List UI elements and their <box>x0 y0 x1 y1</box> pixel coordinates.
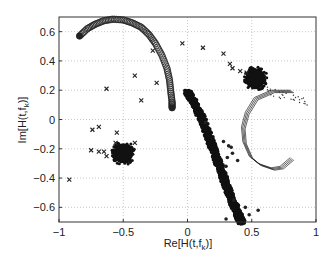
scatter-plot: −1−0.500.51 0.60.40.20−0.2−0.4−0.6 Re[H(… <box>0 0 335 261</box>
series-cluster-left <box>111 141 136 165</box>
x-tick-label: −1 <box>53 226 66 238</box>
series-cluster-right <box>243 66 268 91</box>
x-tick-label: −0.5 <box>112 226 134 238</box>
y-axis-label: Im[H(t,fk)] <box>16 97 31 144</box>
y-tick-label: 0.6 <box>40 26 55 38</box>
grid-lines <box>59 17 316 222</box>
x-tick-label: 0.5 <box>244 226 259 238</box>
x-tick-label: 1 <box>313 226 319 238</box>
x-axis-label: Re[H(t,fk)] <box>164 237 213 252</box>
y-tick-label: 0.4 <box>40 55 55 67</box>
y-tick-label: −0.2 <box>33 143 55 155</box>
y-tick-label: −0.6 <box>33 201 55 213</box>
y-tick-label: 0 <box>49 114 55 126</box>
y-tick-label: 0.2 <box>40 84 55 96</box>
y-axis-ticks: 0.60.40.20−0.2−0.4−0.6 <box>33 26 62 214</box>
series-arc-circles <box>76 16 175 111</box>
y-tick-label: −0.4 <box>33 172 55 184</box>
